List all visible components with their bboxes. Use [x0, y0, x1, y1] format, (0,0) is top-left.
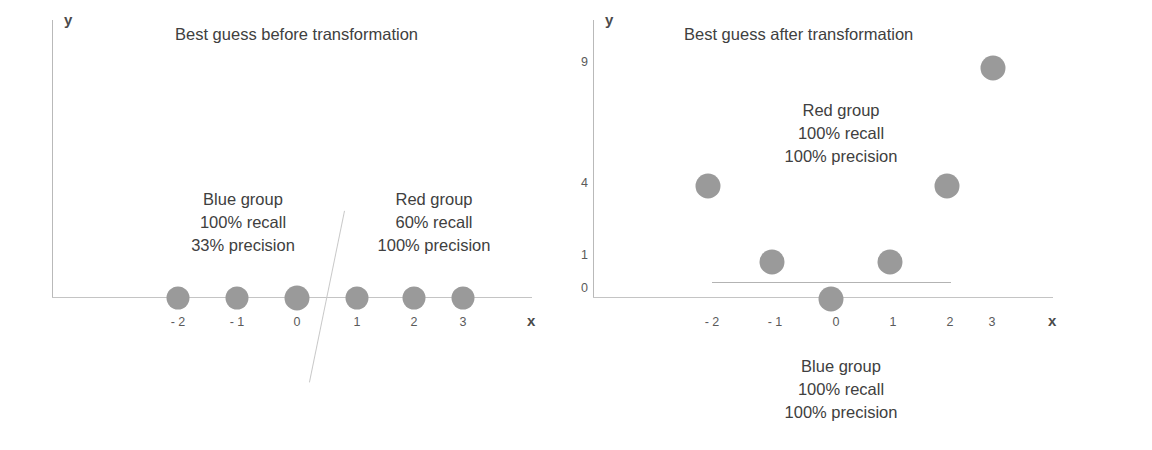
annotation-line: 100% recall	[191, 211, 295, 234]
y-tick-label: 1	[576, 249, 588, 262]
x-tick-label: 2	[947, 316, 954, 329]
x-tick-label: 2	[411, 316, 418, 329]
data-point	[878, 250, 903, 275]
decision-boundary-after	[712, 282, 951, 283]
annotation-line: 100% recall	[785, 122, 898, 145]
annotation-blue-group-before: Blue group 100% recall 33% precision	[191, 188, 295, 256]
panel-after-transformation: y x Best guess after transformation 9 4 …	[576, 0, 1152, 450]
annotation-line: Blue group	[785, 355, 898, 378]
data-point	[346, 287, 369, 310]
x-tick-label: - 1	[230, 316, 245, 329]
data-point	[760, 250, 785, 275]
annotation-line: Blue group	[191, 188, 295, 211]
data-point	[226, 287, 249, 310]
x-tick-label: - 1	[768, 316, 783, 329]
data-point	[935, 174, 960, 199]
y-tick-label: 9	[576, 56, 588, 69]
x-axis-label-before: x	[527, 313, 535, 328]
annotation-red-group-before: Red group 60% recall 100% precision	[378, 188, 491, 256]
x-tick-label: - 2	[705, 316, 720, 329]
y-tick-label: 4	[576, 177, 588, 190]
annotation-line: 100% precision	[785, 401, 898, 424]
annotation-line: Red group	[785, 99, 898, 122]
y-axis-line-before	[52, 20, 53, 298]
x-tick-label: 1	[354, 316, 361, 329]
data-point	[981, 56, 1006, 81]
annotation-red-group-after: Red group 100% recall 100% precision	[785, 99, 898, 167]
y-axis-label-after: y	[605, 12, 613, 27]
data-point	[452, 287, 475, 310]
data-point	[403, 287, 426, 310]
figure-canvas: y x Best guess before transformation - 2…	[0, 0, 1152, 450]
x-tick-label: 3	[460, 316, 467, 329]
panel-title-after: Best guess after transformation	[684, 26, 913, 43]
x-tick-label: - 2	[171, 316, 186, 329]
data-point	[285, 286, 310, 311]
x-tick-label: 1	[890, 316, 897, 329]
y-axis-line-after	[593, 20, 594, 298]
annotation-line: 100% recall	[785, 378, 898, 401]
annotation-line: 60% recall	[378, 211, 491, 234]
x-axis-label-after: x	[1048, 313, 1056, 328]
x-tick-label: 0	[833, 316, 840, 329]
y-axis-label-before: y	[64, 12, 72, 27]
annotation-line: 100% precision	[785, 145, 898, 168]
data-point	[819, 287, 844, 312]
x-tick-label: 3	[989, 316, 996, 329]
panel-title-before: Best guess before transformation	[175, 26, 418, 43]
x-tick-label: 0	[294, 316, 301, 329]
annotation-blue-group-after: Blue group 100% recall 100% precision	[785, 355, 898, 423]
panel-before-transformation: y x Best guess before transformation - 2…	[0, 0, 576, 450]
annotation-line: Red group	[378, 188, 491, 211]
y-tick-label: 0	[576, 282, 588, 295]
annotation-line: 100% precision	[378, 234, 491, 257]
data-point	[696, 174, 721, 199]
annotation-line: 33% precision	[191, 234, 295, 257]
data-point	[167, 287, 190, 310]
